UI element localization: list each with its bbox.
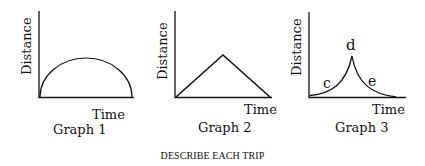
graph-3-xlabel: Time: [372, 102, 405, 117]
graph-2-title: Graph 2: [198, 120, 251, 135]
graph-1-title: Graph 1: [53, 122, 106, 137]
graph-3: Distance c d e Time Graph 3: [289, 12, 406, 135]
graph-1: Distance Time Graph 1: [19, 11, 134, 137]
graph-3-point-d: d: [346, 36, 356, 54]
graph-3-title: Graph 3: [335, 120, 388, 135]
graph-3-point-e: e: [368, 73, 376, 89]
graph-2-xlabel: Time: [244, 102, 277, 117]
graph-1-xlabel: Time: [92, 107, 125, 122]
graph-1-curve: [40, 58, 132, 97]
caption: DESCRIBE EACH TRIP: [0, 150, 425, 161]
graph-3-point-c: c: [323, 75, 331, 91]
graph-1-ylabel: Distance: [19, 17, 34, 75]
graph-2-curve: [176, 55, 270, 97]
graph-2-ylabel: Distance: [155, 22, 170, 80]
graphs-canvas: Distance Time Graph 1 Distance Time Grap…: [0, 0, 425, 166]
graph-2: Distance Time Graph 2: [155, 11, 277, 135]
graph-3-ylabel: Distance: [289, 18, 304, 76]
